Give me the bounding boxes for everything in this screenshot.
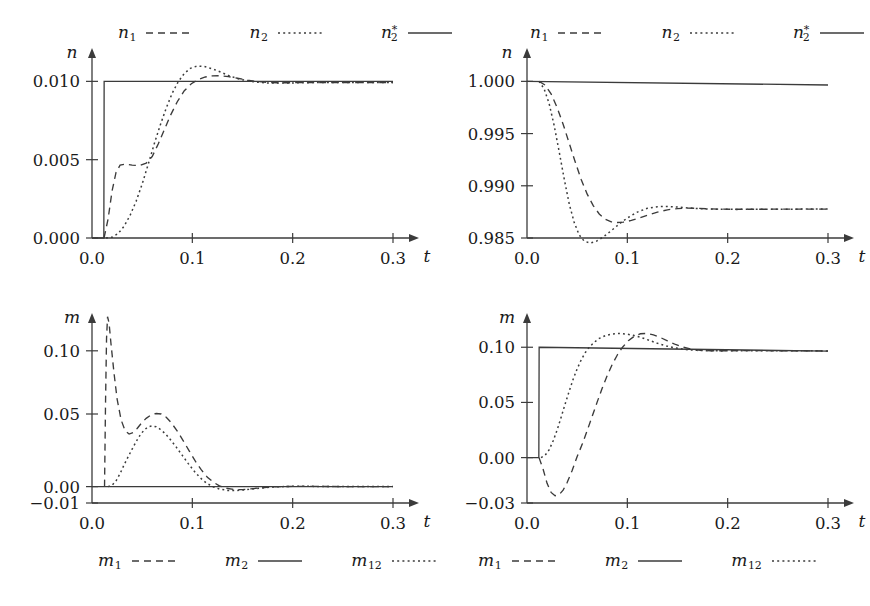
svg-text:−0.03: −0.03 — [464, 494, 515, 513]
plot-top-right: 0.00.10.20.3t0.9850.9900.9951.000n — [435, 40, 870, 290]
svg-text:0.2: 0.2 — [715, 249, 741, 268]
svg-text:0.3: 0.3 — [380, 249, 406, 268]
curve-n_2 — [106, 66, 393, 238]
legend-line-sample-solid — [407, 27, 453, 39]
svg-text:0.3: 0.3 — [815, 249, 841, 268]
panel-bottom-right: 0.00.10.20.3t−0.030.000.050.10m — [435, 305, 870, 555]
svg-text:0.05: 0.05 — [478, 393, 515, 412]
legend-line-sample-dotted — [277, 27, 323, 39]
svg-text:t: t — [424, 511, 431, 531]
svg-text:n: n — [67, 42, 78, 62]
legend-line-sample-dashed — [131, 555, 177, 567]
svg-text:0.05: 0.05 — [43, 405, 80, 424]
curve-n_2^* — [92, 81, 393, 238]
panel-bottom-left: 0.00.10.20.3t−0.010.000.050.10m — [0, 305, 435, 555]
legend-line-sample-dotted — [391, 555, 437, 567]
svg-text:0.3: 0.3 — [815, 514, 841, 533]
svg-text:0.010: 0.010 — [33, 72, 80, 91]
curve-m_2 — [527, 347, 828, 457]
svg-text:0.1: 0.1 — [614, 249, 640, 268]
svg-text:m: m — [499, 307, 515, 327]
legend-line-sample-dashed — [557, 27, 603, 39]
legend-entry-m12: m12 — [731, 550, 817, 572]
curve-m_1 — [539, 333, 828, 495]
legend-label: m1 — [98, 550, 122, 572]
legend-entry-m1: m1 — [478, 550, 557, 572]
panel-top-left: 0.00.10.20.3t0.0000.0050.010n — [0, 40, 435, 290]
legend-label: m1 — [478, 550, 502, 572]
curve-n_2 — [539, 81, 828, 243]
curve-n_1 — [104, 76, 393, 238]
svg-text:1.000: 1.000 — [468, 72, 515, 91]
curve-m_1 — [105, 317, 393, 490]
svg-text:0.0: 0.0 — [514, 514, 540, 533]
svg-text:0.985: 0.985 — [468, 229, 515, 248]
svg-text:0.990: 0.990 — [468, 177, 515, 196]
legend-bottom-left: m1m2m12 — [98, 550, 437, 572]
panel-top-right: 0.00.10.20.3t0.9850.9900.9951.000n — [435, 40, 870, 290]
legend-entry-m12: m12 — [351, 550, 437, 572]
curve-n_2^* — [527, 81, 828, 85]
svg-text:0.2: 0.2 — [280, 514, 306, 533]
curve-m_12 — [541, 333, 828, 457]
plot-bottom-right: 0.00.10.20.3t−0.030.000.050.10m — [435, 305, 870, 555]
legend-line-sample-solid — [819, 27, 865, 39]
plot-bottom-left: 0.00.10.20.3t−0.010.000.050.10m — [0, 305, 435, 555]
svg-text:m: m — [64, 307, 80, 327]
svg-text:0.995: 0.995 — [468, 125, 515, 144]
svg-text:0.0: 0.0 — [79, 514, 105, 533]
legend-line-sample-dotted — [689, 27, 735, 39]
legend-label: m2 — [605, 550, 629, 572]
svg-text:0.1: 0.1 — [179, 514, 205, 533]
svg-text:t: t — [424, 246, 431, 266]
figure-four-panel-plot: n1n2n*2 0.00.10.20.3t0.0000.0050.010n n1… — [0, 0, 870, 606]
svg-text:0.000: 0.000 — [33, 229, 80, 248]
legend-entry-m2: m2 — [605, 550, 684, 572]
svg-text:−0.01: −0.01 — [29, 494, 80, 513]
svg-text:0.1: 0.1 — [614, 514, 640, 533]
svg-text:t: t — [859, 511, 866, 531]
svg-text:n: n — [502, 42, 513, 62]
legend-label: m2 — [225, 550, 249, 572]
svg-text:0.10: 0.10 — [478, 338, 515, 357]
svg-text:0.0: 0.0 — [514, 249, 540, 268]
svg-text:0.10: 0.10 — [43, 342, 80, 361]
svg-text:0.2: 0.2 — [715, 514, 741, 533]
legend-label: m12 — [351, 550, 382, 572]
svg-text:0.0: 0.0 — [79, 249, 105, 268]
svg-text:t: t — [859, 246, 866, 266]
svg-text:0.005: 0.005 — [33, 151, 80, 170]
svg-text:0.2: 0.2 — [280, 249, 306, 268]
curve-n_1 — [539, 81, 828, 222]
curve-m_12 — [108, 426, 393, 491]
legend-label: m12 — [731, 550, 762, 572]
plot-top-left: 0.00.10.20.3t0.0000.0050.010n — [0, 40, 435, 290]
legend-line-sample-solid — [257, 555, 303, 567]
legend-entry-m1: m1 — [98, 550, 177, 572]
legend-line-sample-dashed — [145, 27, 191, 39]
svg-text:0.3: 0.3 — [380, 514, 406, 533]
svg-text:0.00: 0.00 — [478, 449, 515, 468]
legend-bottom-right: m1m2m12 — [478, 550, 817, 572]
svg-text:0.1: 0.1 — [179, 249, 205, 268]
legend-line-sample-dashed — [511, 555, 557, 567]
legend-line-sample-dotted — [771, 555, 817, 567]
svg-text:0.00: 0.00 — [43, 478, 80, 497]
legend-entry-m2: m2 — [225, 550, 304, 572]
legend-line-sample-solid — [637, 555, 683, 567]
